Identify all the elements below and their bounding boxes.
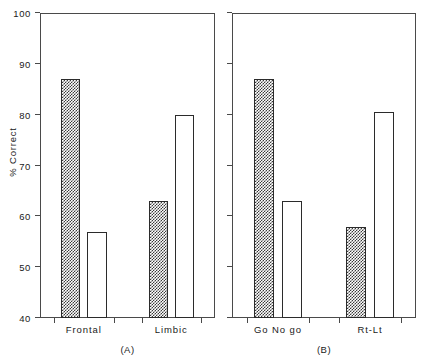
- x-group-label: Rt-Lt: [357, 324, 382, 335]
- y-tick-label: 90: [19, 58, 31, 69]
- x-group-label: Limbic: [155, 324, 188, 335]
- panel-a-x-axis: FrontalLimbic: [40, 13, 215, 318]
- x-tick: [54, 318, 55, 323]
- x-tick: [339, 318, 340, 323]
- x-tick: [309, 318, 310, 323]
- panel-b: Go No goRt-Lt (B): [232, 13, 416, 318]
- x-tick: [401, 318, 402, 323]
- y-tick-label: 100: [13, 8, 31, 19]
- x-tick: [114, 318, 115, 323]
- panel-a-caption: (A): [120, 344, 134, 355]
- y-tick-label: 60: [19, 211, 31, 222]
- y-axis-title: % Correct: [7, 127, 18, 176]
- y-tick-label: 80: [19, 109, 31, 120]
- x-tick: [142, 318, 143, 323]
- x-tick: [201, 318, 202, 323]
- y-tick-label: 70: [19, 160, 31, 171]
- x-group-label: Frontal: [66, 324, 102, 335]
- panel-b-x-axis: Go No goRt-Lt: [232, 13, 416, 318]
- figure: 405060708090100 FrontalLimbic (A) % Corr…: [0, 0, 426, 357]
- panel-a: 405060708090100 FrontalLimbic (A): [40, 13, 215, 318]
- y-tick-label: 50: [19, 262, 31, 273]
- x-tick: [247, 318, 248, 323]
- x-group-label: Go No go: [254, 324, 302, 335]
- y-tick-label: 40: [19, 313, 31, 324]
- panel-b-caption: (B): [317, 344, 331, 355]
